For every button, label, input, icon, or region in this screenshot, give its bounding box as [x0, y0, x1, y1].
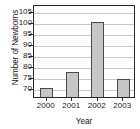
plot-area	[33, 5, 135, 98]
gridline	[34, 68, 134, 69]
gridline	[34, 13, 134, 14]
gridline	[34, 57, 134, 58]
x-axis-tick-label: 2000	[33, 101, 59, 110]
x-axis-tick-label: 2001	[59, 101, 85, 110]
gridline	[34, 24, 134, 25]
x-axis-tick-label: 2002	[84, 101, 110, 110]
x-axis-tick-label: 2003	[110, 101, 136, 110]
bar	[91, 22, 104, 99]
bar	[117, 79, 130, 98]
bar-chart-figure: Number of Newborns 707580859095100105 20…	[0, 0, 140, 129]
x-axis-title: Year	[33, 117, 135, 126]
gridline	[34, 46, 134, 47]
gridline	[34, 35, 134, 36]
bar	[40, 88, 53, 98]
bar	[66, 72, 79, 98]
